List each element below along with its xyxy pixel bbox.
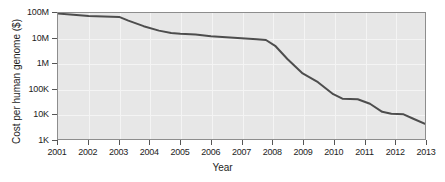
x-tick-label: 2004 — [140, 147, 159, 157]
x-tick-mark — [211, 140, 212, 145]
x-tick-mark — [303, 140, 304, 145]
x-tick-label: 2005 — [170, 147, 189, 157]
x-tick-label: 2003 — [109, 147, 128, 157]
x-tick-mark — [149, 140, 150, 145]
cost-per-genome-line — [58, 14, 425, 124]
cost-curve-svg — [58, 13, 425, 139]
x-tick-label: 2006 — [201, 147, 220, 157]
x-tick-label: 2007 — [232, 147, 251, 157]
y-tick-label: 100K — [28, 84, 49, 94]
y-axis-title: Cost per human genome ($) — [11, 14, 22, 150]
y-tick-label: 10M — [32, 33, 49, 43]
x-tick-label: 2009 — [293, 147, 312, 157]
x-tick-label: 2001 — [47, 147, 66, 157]
x-tick-mark — [334, 140, 335, 145]
x-axis: 2001200220032004200520062007200820092010… — [0, 140, 445, 182]
x-tick-mark — [395, 140, 396, 145]
y-tick-label: 10K — [33, 109, 49, 119]
x-tick-label: 2008 — [263, 147, 282, 157]
x-tick-mark — [119, 140, 120, 145]
x-tick-mark — [365, 140, 366, 145]
y-tick-label: 100M — [27, 7, 49, 17]
x-tick-mark — [426, 140, 427, 145]
x-tick-label: 2012 — [386, 147, 405, 157]
x-tick-mark — [57, 140, 58, 145]
chart-figure: 100M10M1M100K10K1K Cost per human genome… — [0, 0, 445, 182]
x-tick-label: 2013 — [416, 147, 435, 157]
x-tick-mark — [180, 140, 181, 145]
x-tick-label: 2010 — [324, 147, 343, 157]
x-tick-label: 2011 — [355, 147, 374, 157]
x-tick-label: 2002 — [78, 147, 97, 157]
x-axis-title: Year — [0, 162, 445, 173]
y-tick-label: 1M — [37, 58, 49, 68]
plot-area — [57, 12, 426, 140]
x-tick-mark — [242, 140, 243, 145]
x-tick-mark — [272, 140, 273, 145]
x-tick-mark — [88, 140, 89, 145]
